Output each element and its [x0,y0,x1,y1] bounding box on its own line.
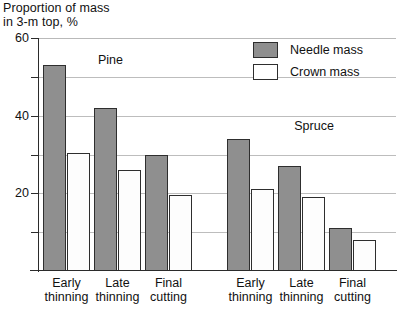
legend-swatch-needle-icon [253,42,278,58]
bar-crown-mass-0 [67,153,90,271]
bar-crown-mass-2 [169,195,192,271]
y-tick-30 [31,155,39,156]
annotation-spruce: Spruce [294,119,334,133]
ytick-label-60: 60 [0,31,29,45]
bar-crown-mass-5 [353,240,376,271]
legend-label-needle-mass: Needle mass [290,43,363,57]
bar-needle-mass-3 [227,139,250,271]
legend-item-crown-mass: Crown mass [253,64,363,80]
legend-label-crown-mass: Crown mass [290,65,359,79]
y-tick-20 [31,193,39,194]
legend-swatch-crown-icon [253,64,278,80]
bar-crown-mass-1 [118,170,141,271]
bar-crown-mass-3 [251,189,274,271]
x-axis-label-5: Final cutting [319,276,387,304]
bar-needle-mass-5 [329,228,352,271]
ytick-label-20: 20 [0,186,29,200]
x-axis-baseline [30,270,397,271]
bar-needle-mass-0 [43,65,66,271]
y-tick-60 [31,38,39,39]
legend: Needle mass Crown mass [253,42,363,86]
bar-needle-mass-1 [94,108,117,271]
chart-axis-title: Proportion of mass in 3-m top, % [3,1,110,29]
y-tick-50 [31,77,39,78]
ytick-label-40: 40 [0,109,29,123]
bar-needle-mass-4 [278,166,301,271]
legend-item-needle-mass: Needle mass [253,42,363,58]
x-axis-labels: Early thinningLate thinningFinal cutting… [39,276,396,310]
annotation-pine: Pine [98,53,123,67]
x-axis-label-2: Final cutting [135,276,203,304]
bar-needle-mass-2 [145,155,168,272]
bar-chart: Proportion of mass in 3-m top, % 60 40 2… [0,0,399,311]
bar-crown-mass-4 [302,197,325,271]
y-tick-10 [31,232,39,233]
y-tick-40 [31,116,39,117]
